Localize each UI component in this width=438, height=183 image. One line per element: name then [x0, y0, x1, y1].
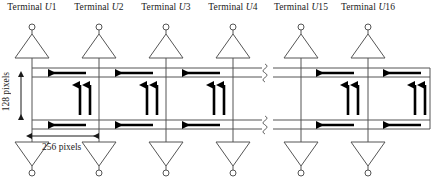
- driver-triangle-down-u4: [216, 142, 250, 166]
- terminal-column-u1: [15, 24, 49, 176]
- terminal-column-u16: [351, 24, 385, 176]
- driver-triangle-down-u16: [351, 142, 385, 166]
- driver-triangle-up-u3: [149, 34, 183, 58]
- terminal-node-top-u1: [29, 24, 35, 30]
- diagram-svg-layer: [0, 0, 438, 183]
- terminal-node-bottom-u2: [96, 170, 102, 176]
- bus-horizontal-lines: [32, 68, 430, 129]
- driver-triangle-up-u2: [82, 34, 116, 58]
- driver-triangle-up-u15: [284, 34, 318, 58]
- driver-triangle-down-u3: [149, 142, 183, 166]
- terminal-node-bottom-u16: [365, 170, 371, 176]
- terminal-node-bottom-u4: [230, 170, 236, 176]
- driver-triangle-up-u1: [15, 34, 49, 58]
- terminal-column-u2: [82, 24, 116, 176]
- terminal-node-top-u2: [96, 24, 102, 30]
- break-symbols: [262, 64, 273, 134]
- terminal-node-top-u4: [230, 24, 236, 30]
- terminal-column-u4: [216, 24, 250, 176]
- terminal-node-top-u15: [298, 24, 304, 30]
- terminal-node-bottom-u3: [163, 170, 169, 176]
- vertical-arrow-pair-4: [348, 85, 358, 115]
- driver-triangle-down-u15: [284, 142, 318, 166]
- terminal-node-top-u3: [163, 24, 169, 30]
- terminal-columns: [15, 24, 385, 176]
- vertical-arrow-pair-1: [80, 85, 90, 115]
- dimension-label-horizontal: 256 pixels: [42, 142, 81, 152]
- terminal-column-u3: [149, 24, 183, 176]
- terminal-column-u15: [284, 24, 318, 176]
- vertical-arrow-pair-2: [147, 85, 157, 115]
- vertical-arrow-pair-3: [214, 85, 224, 115]
- terminal-node-bottom-u15: [298, 170, 304, 176]
- terminal-node-top-u16: [365, 24, 371, 30]
- terminal-node-bottom-u1: [29, 170, 35, 176]
- terminal-bus-diagram: Terminal U1 Terminal U2 Terminal U3 Term…: [0, 0, 438, 183]
- driver-triangle-down-u2: [82, 142, 116, 166]
- driver-triangle-up-u16: [351, 34, 385, 58]
- vertical-flow-arrow-pairs: [80, 85, 425, 115]
- dimension-label-vertical: 128 pixels: [1, 72, 11, 111]
- driver-triangle-up-u4: [216, 34, 250, 58]
- vertical-arrow-pair-5: [415, 85, 425, 115]
